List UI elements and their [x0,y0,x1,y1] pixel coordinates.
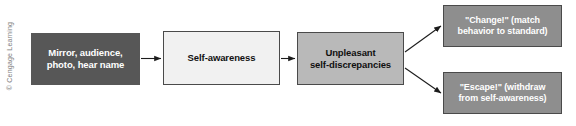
arrow-discrepancies-to-escape [405,68,441,93]
node-change-outcome: "Change!" (match behavior to standard) [443,5,562,47]
diagram-canvas: © Cengage Learning Mirror, audience, pho… [0,0,576,126]
node-escape-outcome: "Escape!" (withdraw from self-awareness) [443,72,562,114]
node-source: Mirror, audience, photo, hear name [31,33,140,85]
copyright-credit: © Cengage Learning [6,6,18,106]
node-self-awareness-line-1: Self-awareness [188,52,256,64]
node-self-awareness: Self-awareness [163,31,280,85]
node-unpleasant-self-discrepancies: Unpleasant self-discrepancies [297,32,404,85]
node-discrepancies-line-2: self-discrepancies [310,59,391,71]
node-source-line-2: photo, hear name [47,59,125,71]
node-discrepancies-line-1: Unpleasant [310,47,391,59]
arrow-discrepancies-to-change [405,26,441,52]
node-escape-line-2: from self-awareness) [458,93,546,104]
node-source-line-1: Mirror, audience, [47,47,125,59]
node-change-line-1: "Change!" (match [458,15,548,26]
node-escape-line-1: "Escape!" (withdraw [458,82,546,93]
node-change-line-2: behavior to standard) [458,26,548,37]
